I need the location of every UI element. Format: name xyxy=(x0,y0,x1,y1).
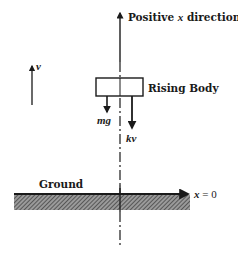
rising-body-label: Rising Body xyxy=(148,82,219,94)
origin-label: x = 0 xyxy=(193,188,217,200)
rising-body-diagram: Positive x direction Rising Body mg kv v… xyxy=(0,0,238,259)
axis-label: Positive x direction xyxy=(128,11,238,23)
velocity-label: v xyxy=(36,60,41,72)
ground-hatch xyxy=(14,195,190,210)
ground-label: Ground xyxy=(39,178,84,190)
gravity-force-label: mg xyxy=(97,114,112,126)
drag-force-label: kv xyxy=(126,132,137,144)
